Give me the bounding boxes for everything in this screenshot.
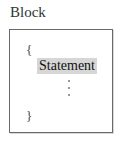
ellipsis-dot bbox=[68, 94, 70, 96]
ellipsis-dot bbox=[68, 87, 70, 89]
diagram-title: Block bbox=[10, 4, 46, 21]
ellipsis-dot bbox=[68, 80, 70, 82]
vertical-ellipsis bbox=[68, 80, 72, 101]
open-brace: { bbox=[26, 42, 32, 58]
close-brace: } bbox=[26, 108, 32, 124]
statement-label: Statement bbox=[37, 58, 97, 74]
block-box: { Statement } bbox=[9, 29, 113, 133]
